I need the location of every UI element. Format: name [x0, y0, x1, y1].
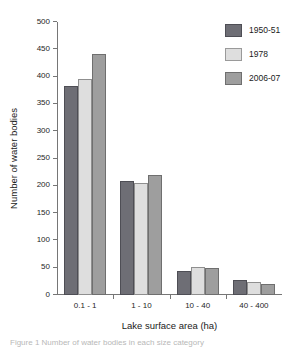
legend-label: 1950-51	[249, 25, 280, 35]
y-tick-label: 400	[37, 72, 50, 80]
figure-caption: Figure 1 Number of water bodies in each …	[10, 338, 300, 350]
y-tick-label: 150	[37, 209, 50, 217]
y-tick: 300	[53, 130, 57, 131]
y-tick-label: 300	[37, 127, 50, 135]
bar	[233, 280, 247, 295]
x-tick	[170, 295, 171, 299]
y-tick: 400	[53, 76, 57, 77]
x-category-label: 40 - 400	[239, 302, 268, 310]
x-tick	[113, 295, 114, 299]
bar	[78, 79, 92, 295]
legend-item: 1950-51	[225, 21, 305, 39]
x-category-label: 10 - 40	[185, 302, 210, 310]
bar	[134, 183, 148, 295]
legend-swatch	[225, 48, 242, 61]
y-tick: 250	[53, 158, 57, 159]
y-tick-label: 250	[37, 154, 50, 162]
bar	[64, 86, 78, 295]
y-tick-label: 200	[37, 181, 50, 189]
bar	[177, 271, 191, 295]
legend-label: 2006-07	[249, 73, 280, 83]
bar-chart-figure: Number of water bodies 05010015020025030…	[0, 0, 306, 350]
y-tick: 0	[53, 294, 57, 295]
y-tick: 200	[53, 185, 57, 186]
bar	[148, 175, 162, 295]
bar	[247, 282, 261, 295]
x-axis-title: Lake surface area (ha)	[57, 320, 282, 331]
y-tick: 450	[53, 48, 57, 49]
bar	[120, 181, 134, 295]
y-axis-title: Number of water bodies	[6, 22, 20, 295]
y-tick-label: 500	[37, 18, 50, 26]
y-tick: 500	[53, 21, 57, 22]
y-tick-label: 0	[46, 291, 50, 299]
bar	[261, 284, 275, 295]
y-tick: 100	[53, 239, 57, 240]
y-axis-title-text: Number of water bodies	[8, 108, 19, 209]
chart-legend: 1950-5119782006-07	[225, 21, 305, 93]
legend-swatch	[225, 72, 242, 85]
y-tick-label: 450	[37, 45, 50, 53]
legend-label: 1978	[249, 49, 268, 59]
x-category-label: 1 - 10	[131, 302, 151, 310]
y-tick: 350	[53, 103, 57, 104]
legend-swatch	[225, 24, 242, 37]
x-tick	[226, 295, 227, 299]
bar	[205, 268, 219, 295]
legend-item: 2006-07	[225, 69, 305, 87]
y-tick: 50	[53, 267, 57, 268]
y-tick-label: 100	[37, 236, 50, 244]
y-tick: 150	[53, 212, 57, 213]
y-tick-label: 50	[41, 263, 50, 271]
bar	[92, 54, 106, 295]
legend-item: 1978	[225, 45, 305, 63]
x-category-label: 0.1 - 1	[74, 302, 97, 310]
y-tick-label: 350	[37, 99, 50, 107]
bar	[191, 267, 205, 295]
y-axis-line	[57, 22, 58, 295]
